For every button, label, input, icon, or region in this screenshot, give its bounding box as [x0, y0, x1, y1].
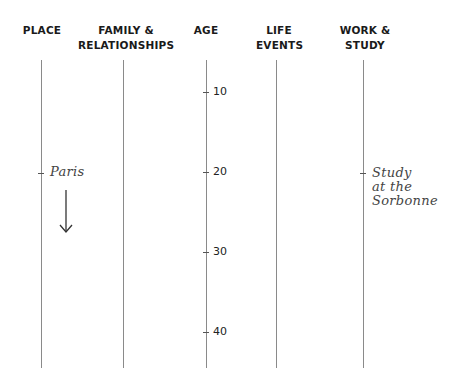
- header-work-study: WORK & STUDY: [338, 23, 392, 53]
- age-tick-40: [203, 332, 209, 333]
- age-label-10: 10: [213, 86, 227, 98]
- header-family-line-2: RELATIONSHIPS: [78, 38, 174, 53]
- header-life-events: LIFE EVENTS: [256, 23, 302, 53]
- paris-annotation: Paris: [50, 165, 84, 179]
- study-annotation: Study at the Sorbonne: [372, 166, 438, 208]
- age-axis-line: [206, 60, 207, 368]
- place-timeline-line: [41, 60, 42, 368]
- header-family-relationships: FAMILY & RELATIONSHIPS: [78, 23, 174, 53]
- age-tick-10: [203, 92, 209, 93]
- work-study-timeline-line: [363, 60, 364, 368]
- header-life-line-1: LIFE: [256, 23, 302, 38]
- family-timeline-line: [123, 60, 124, 368]
- study-line-3: Sorbonne: [372, 194, 438, 208]
- header-place-line: PLACE: [18, 23, 66, 38]
- work-tick: [360, 173, 366, 174]
- age-label-20: 20: [213, 166, 227, 178]
- age-tick-20: [203, 172, 209, 173]
- arrow-down-icon: [58, 190, 74, 234]
- header-life-line-2: EVENTS: [256, 38, 302, 53]
- life-events-timeline-line: [276, 60, 277, 368]
- header-family-line-1: FAMILY &: [78, 23, 174, 38]
- age-tick-30: [203, 252, 209, 253]
- header-work-line-1: WORK &: [338, 23, 392, 38]
- age-label-40: 40: [213, 326, 227, 338]
- study-line-2: at the: [372, 180, 438, 194]
- header-place: PLACE: [18, 23, 66, 38]
- header-age: AGE: [188, 23, 224, 38]
- place-tick: [38, 173, 44, 174]
- header-age-line: AGE: [188, 23, 224, 38]
- header-work-line-2: STUDY: [338, 38, 392, 53]
- study-line-1: Study: [372, 166, 438, 180]
- age-label-30: 30: [213, 246, 227, 258]
